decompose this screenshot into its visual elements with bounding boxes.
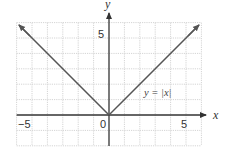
y-axis-label: y [104, 0, 111, 11]
y-tick-5: 5 [98, 28, 104, 40]
x-axis-label: x [212, 108, 219, 122]
x-tick-0: 0 [100, 118, 106, 130]
chart-canvas: y x 5 −5 0 5 y = |x| [0, 0, 230, 156]
equation-label: y = |x| [143, 87, 171, 98]
graph-arrow-right [188, 25, 199, 36]
x-tick-5: 5 [181, 118, 187, 130]
graph-arrow-left [19, 25, 30, 36]
x-tick-neg5: −5 [18, 118, 31, 130]
